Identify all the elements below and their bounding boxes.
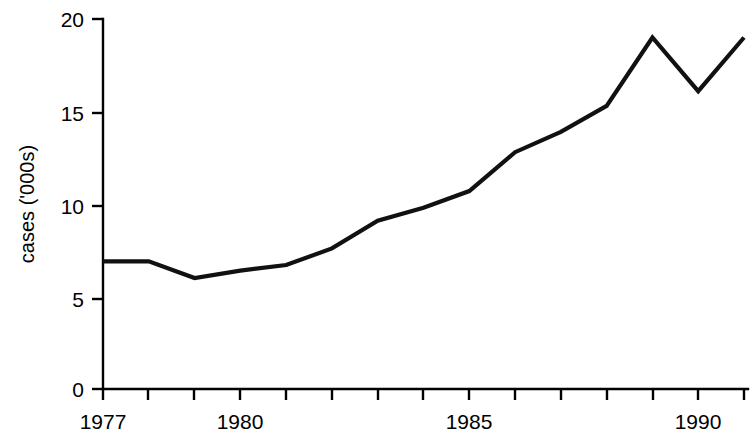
y-tick-label-5: 5 (72, 288, 84, 311)
x-tick-label-1977: 1977 (80, 410, 127, 433)
data-series-line (103, 38, 744, 279)
y-tick-label-15: 15 (61, 102, 84, 125)
x-tick-label-1980: 1980 (217, 410, 264, 433)
y-tick-label-20: 20 (61, 8, 84, 31)
x-tick-label-1985: 1985 (446, 410, 493, 433)
y-axis-title: cases ('000s) (16, 145, 38, 263)
x-axis-ticks (103, 389, 744, 400)
chart-container: 20 15 10 5 0 1977 1980 1985 1990 cases (… (0, 0, 752, 445)
y-axis-ticks (92, 19, 103, 389)
x-tick-label-1990: 1990 (675, 410, 722, 433)
line-chart-plot: 20 15 10 5 0 1977 1980 1985 1990 cases (… (0, 0, 752, 445)
y-tick-label-10: 10 (61, 195, 84, 218)
y-tick-label-0: 0 (72, 378, 84, 401)
